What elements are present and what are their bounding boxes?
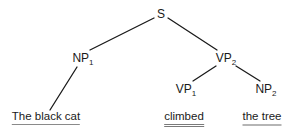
leaf-object: the tree: [243, 110, 282, 126]
node-s-label: S: [157, 7, 165, 21]
node-vp2-subscript: 2: [232, 58, 236, 67]
leaf-subject: The black cat: [12, 110, 80, 125]
node-vp1-subscript: 1: [192, 89, 196, 98]
node-np1-label: NP: [72, 51, 89, 65]
edge-np1-subject: [50, 67, 77, 110]
edge-s-np1: [90, 18, 154, 50]
node-np2: NP2: [255, 82, 276, 96]
node-vp1-label: VP: [176, 82, 192, 96]
node-np2-subscript: 2: [272, 89, 276, 98]
node-np1: NP1: [72, 51, 93, 65]
node-s: S: [157, 7, 165, 21]
edge-vp2-np2: [236, 66, 260, 81]
node-vp2-label: VP: [216, 51, 232, 65]
node-vp2: VP2: [216, 51, 236, 65]
edge-s-vp2: [168, 18, 217, 50]
node-np1-subscript: 1: [89, 58, 93, 67]
node-vp1: VP1: [176, 82, 196, 96]
node-np2-label: NP: [255, 82, 272, 96]
leaf-verb: climbed: [164, 110, 204, 127]
edge-vp2-vp1: [193, 66, 216, 81]
